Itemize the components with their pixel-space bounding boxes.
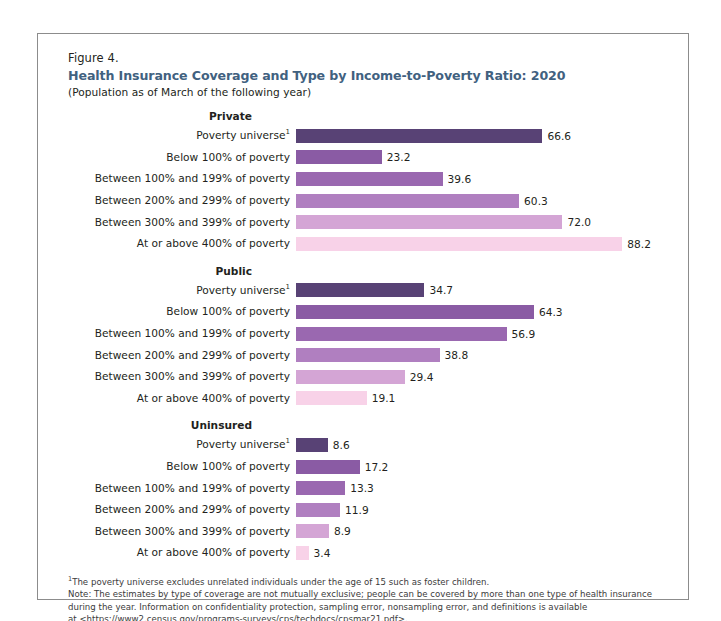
bar xyxy=(296,348,440,362)
bar-track: 56.9 xyxy=(296,323,670,345)
note-line-2: during the year. Information on confiden… xyxy=(68,601,670,613)
bar-category-label: At or above 400% of poverty xyxy=(68,237,296,250)
bar-value-label: 88.2 xyxy=(627,238,651,250)
footnote-marker: 1 xyxy=(286,283,290,291)
bar-category-label: Between 300% and 399% of poverty xyxy=(68,216,296,229)
bar xyxy=(296,215,562,229)
bar-row: Between 100% and 199% of poverty56.9 xyxy=(68,323,670,345)
note-line-3: at <https://www2.census.gov/programs-sur… xyxy=(68,613,670,621)
bar-value-label: 29.4 xyxy=(410,371,434,383)
bar-track: 88.2 xyxy=(296,233,670,255)
panel-uninsured: UninsuredPoverty universe18.6Below 100% … xyxy=(68,418,670,564)
bar xyxy=(296,237,622,251)
bar-row: At or above 400% of poverty19.1 xyxy=(68,388,670,410)
bar-category-label: Between 200% and 299% of poverty xyxy=(68,503,296,516)
bar-value-label: 60.3 xyxy=(524,195,548,207)
bar-track: 39.6 xyxy=(296,168,670,190)
bar-value-label: 3.4 xyxy=(314,547,331,559)
bar-track: 66.6 xyxy=(296,125,670,147)
bar-value-label: 64.3 xyxy=(539,306,563,318)
bar-row: Between 300% and 399% of poverty72.0 xyxy=(68,211,670,233)
bar-category-label: Below 100% of poverty xyxy=(68,460,296,473)
bar xyxy=(296,150,382,164)
panel-private: PrivatePoverty universe166.6Below 100% o… xyxy=(68,109,670,255)
bar-row: Below 100% of poverty17.2 xyxy=(68,456,670,478)
bar-category-label: Between 200% and 299% of poverty xyxy=(68,194,296,207)
bar-category-label: Poverty universe1 xyxy=(68,284,296,297)
bar xyxy=(296,305,534,319)
bar-row: Between 300% and 399% of poverty8.9 xyxy=(68,521,670,543)
figure-frame: Figure 4. Health Insurance Coverage and … xyxy=(37,33,689,600)
bar-category-label: Poverty universe1 xyxy=(68,438,296,451)
bar-track: 8.6 xyxy=(296,434,670,456)
bar-value-label: 8.9 xyxy=(334,525,351,537)
bar-value-label: 34.7 xyxy=(429,284,453,296)
bar-row: Between 100% and 199% of poverty39.6 xyxy=(68,168,670,190)
bar-value-label: 13.3 xyxy=(350,482,374,494)
bar-category-label: Between 100% and 199% of poverty xyxy=(68,327,296,340)
bar-row: Poverty universe134.7 xyxy=(68,280,670,302)
bar xyxy=(296,481,345,495)
bar-row: Between 200% and 299% of poverty11.9 xyxy=(68,499,670,521)
bar xyxy=(296,172,443,186)
footnote-line: 1The poverty universe excludes unrelated… xyxy=(68,576,670,588)
bar-value-label: 19.1 xyxy=(372,392,396,404)
bar-value-label: 38.8 xyxy=(445,349,469,361)
bar-row: Below 100% of poverty23.2 xyxy=(68,147,670,169)
figure-subtitle: (Population as of March of the following… xyxy=(68,85,670,100)
bar xyxy=(296,370,405,384)
bar-category-label: Between 100% and 199% of poverty xyxy=(68,482,296,495)
bar xyxy=(296,194,519,208)
bar-category-label: At or above 400% of poverty xyxy=(68,392,296,405)
bar xyxy=(296,129,542,143)
bar xyxy=(296,283,424,297)
figure-inner: Figure 4. Health Insurance Coverage and … xyxy=(68,51,670,589)
panel-title: Public xyxy=(68,264,296,278)
bar xyxy=(296,438,328,452)
bar xyxy=(296,524,329,538)
bar-track: 23.2 xyxy=(296,147,670,169)
bar-row: Between 200% and 299% of poverty60.3 xyxy=(68,190,670,212)
bar-track: 13.3 xyxy=(296,477,670,499)
bar-row: Between 200% and 299% of poverty38.8 xyxy=(68,344,670,366)
bar-track: 11.9 xyxy=(296,499,670,521)
bar-category-label: At or above 400% of poverty xyxy=(68,546,296,559)
panel-public: PublicPoverty universe134.7Below 100% of… xyxy=(68,264,670,410)
bar-row: Between 300% and 399% of poverty29.4 xyxy=(68,366,670,388)
bar-track: 29.4 xyxy=(296,366,670,388)
bar-track: 60.3 xyxy=(296,190,670,212)
bar-category-label: Poverty universe1 xyxy=(68,129,296,142)
panel-title: Private xyxy=(68,109,296,123)
bar-value-label: 11.9 xyxy=(345,504,369,516)
bar-row: Poverty universe18.6 xyxy=(68,434,670,456)
bar-value-label: 17.2 xyxy=(365,461,389,473)
bar-value-label: 72.0 xyxy=(567,216,591,228)
bar xyxy=(296,391,367,405)
bar-category-label: Between 300% and 399% of poverty xyxy=(68,525,296,538)
bar-value-label: 56.9 xyxy=(512,328,536,340)
bar-track: 34.7 xyxy=(296,280,670,302)
bar-track: 64.3 xyxy=(296,301,670,323)
footnote-marker: 1 xyxy=(286,438,290,446)
bar-value-label: 23.2 xyxy=(387,151,411,163)
figure-notes: 1The poverty universe excludes unrelated… xyxy=(68,576,670,621)
bar-category-label: Between 200% and 299% of poverty xyxy=(68,349,296,362)
page-title: Health Insurance Coverage and Type by In… xyxy=(68,67,670,84)
bar-track: 3.4 xyxy=(296,542,670,564)
bar-category-label: Below 100% of poverty xyxy=(68,305,296,318)
figure-number: Figure 4. xyxy=(68,51,670,66)
bar-category-label: Below 100% of poverty xyxy=(68,151,296,164)
bar xyxy=(296,546,309,560)
bar-value-label: 8.6 xyxy=(333,439,350,451)
bar-category-label: Between 300% and 399% of poverty xyxy=(68,370,296,383)
panel-title: Uninsured xyxy=(68,418,296,432)
bar xyxy=(296,327,507,341)
bar-category-label: Between 100% and 199% of poverty xyxy=(68,172,296,185)
bar-value-label: 66.6 xyxy=(547,130,571,142)
bar-track: 8.9 xyxy=(296,521,670,543)
bar-row: Below 100% of poverty64.3 xyxy=(68,301,670,323)
chart-panels: PrivatePoverty universe166.6Below 100% o… xyxy=(68,109,670,564)
bar-track: 72.0 xyxy=(296,211,670,233)
note-line-1: Note: The estimates by type of coverage … xyxy=(68,588,670,600)
bar-track: 17.2 xyxy=(296,456,670,478)
